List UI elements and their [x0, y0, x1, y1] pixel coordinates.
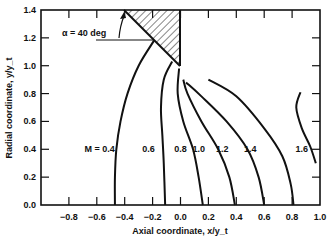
mach-label: 0.8	[174, 144, 187, 154]
angle-arc	[119, 16, 124, 38]
y-tick-label: 0.2	[23, 172, 36, 182]
angle-annotation: α = 40 deg	[62, 28, 106, 38]
x-tick-label: −0.6	[88, 212, 106, 222]
x-tick-label: 0.6	[258, 212, 271, 222]
mach-label: M = 0.4	[84, 144, 114, 154]
y-tick-label: 0.6	[23, 116, 36, 126]
mach-contours	[115, 41, 316, 205]
x-tick-label: 0.4	[230, 212, 243, 222]
mach-label: 1.0	[192, 144, 205, 154]
x-axis-label: Axial coordinate, x/y_t	[132, 226, 228, 236]
y-tick-label: 1.0	[23, 61, 36, 71]
y-axis-label: Radial coordinate, y/y_t	[4, 57, 14, 158]
y-tick-label: 0.8	[23, 89, 36, 99]
mach-label: 1.2	[216, 144, 229, 154]
x-tick-label: −0.8	[60, 212, 78, 222]
mach-label: 0.6	[142, 144, 155, 154]
x-tick-label: 0.8	[286, 212, 299, 222]
x-tick-label: −0.2	[144, 212, 162, 222]
x-tick-label: 1.0	[314, 212, 327, 222]
mach-contour-line	[161, 62, 172, 205]
mach-labels: M = 0.40.60.81.01.21.41.6	[84, 144, 308, 154]
cone-body	[96, 10, 180, 66]
x-axis-ticks: −0.8−0.6−0.4−0.20.00.20.40.60.81.0	[60, 10, 326, 222]
mach-contour-line	[115, 41, 154, 205]
y-tick-label: 1.4	[23, 5, 36, 15]
x-tick-label: −0.4	[116, 212, 134, 222]
y-tick-label: 1.2	[23, 33, 36, 43]
mach-contour-line	[178, 69, 203, 206]
mach-contour-line	[208, 80, 293, 205]
mach-label: 1.4	[244, 144, 257, 154]
x-tick-label: 0.2	[202, 212, 215, 222]
y-tick-label: 0.4	[23, 144, 36, 154]
y-tick-label: 0.0	[23, 200, 36, 210]
chart-figure: −0.8−0.6−0.4−0.20.00.20.40.60.81.0 0.00.…	[0, 0, 331, 251]
x-tick-label: 0.0	[174, 212, 187, 222]
mach-label: 1.6	[296, 144, 309, 154]
